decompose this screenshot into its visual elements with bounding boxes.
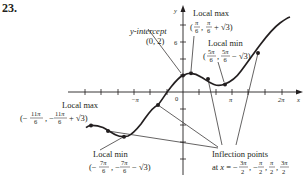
svg-text:,: ,: [201, 22, 203, 32]
local-min-1-coords: ( 5π 6 , 5π 6 − √3): [203, 48, 251, 63]
svg-text:,: ,: [276, 162, 278, 172]
svg-text:(: (: [203, 51, 206, 61]
svg-text:(−: (−: [20, 113, 28, 123]
svg-text:− √3): − √3): [132, 162, 151, 172]
svg-text:, −: , −: [111, 162, 120, 172]
svg-text:6: 6: [207, 27, 211, 34]
svg-text:6: 6: [195, 27, 199, 34]
svg-text:6: 6: [34, 118, 38, 125]
y-axis-arrow-icon: [181, 5, 186, 12]
local-max-1-coords: ( π 6 , π 6 + √3): [190, 19, 233, 34]
function-curve: [86, 17, 290, 137]
tick-label-y6: 6: [174, 39, 178, 46]
tick-label-2pi: 2π: [278, 96, 285, 103]
svg-text:7π: 7π: [100, 159, 107, 166]
local-max-1-label: Local max: [193, 8, 230, 18]
svg-text:11π: 11π: [31, 110, 41, 117]
inflection-label: Inflection points: [212, 149, 268, 159]
svg-text:π: π: [207, 19, 211, 26]
svg-text:(−: (−: [89, 162, 97, 172]
tick-label-zero: 0: [175, 95, 178, 102]
svg-text:7π: 7π: [121, 159, 128, 166]
y-axis-label: y: [173, 7, 177, 14]
svg-text:,: ,: [217, 51, 219, 61]
svg-text:2: 2: [259, 168, 262, 175]
local-min-2-label: Local min: [93, 149, 128, 159]
x-axis-label: x: [296, 96, 300, 103]
svg-text:5π: 5π: [222, 48, 229, 55]
svg-text:6: 6: [224, 56, 228, 63]
graph: −π 0 π 2π x 6 y y-intercept (0, 2) Local…: [0, 0, 307, 178]
local-max-2-label: Local max: [62, 100, 99, 110]
svg-text:6: 6: [210, 56, 214, 63]
local-min-1-label: Local min: [208, 38, 243, 48]
y-intercept-coords: (0, 2): [146, 36, 165, 46]
inflection-coords: at x = − 3π 2 , − π 2 , π 2 , 3π 2: [212, 159, 289, 175]
local-max-2-coords: (− 11π 6 , − 11π 6 + √3): [20, 110, 88, 125]
tick-label-neg-pi: −π: [131, 96, 139, 103]
svg-text:+ √3): + √3): [214, 22, 233, 32]
x-axis-arrow-icon: [296, 90, 303, 95]
svg-text:2: 2: [282, 168, 285, 175]
tick-label-pi: π: [229, 96, 233, 103]
svg-text:5π: 5π: [208, 48, 215, 55]
svg-text:,: ,: [265, 162, 267, 172]
svg-text:, −: , −: [249, 162, 258, 172]
y-intercept-label: y-intercept: [129, 26, 167, 36]
svg-text:π: π: [195, 19, 199, 26]
svg-text:(: (: [190, 22, 193, 32]
svg-text:at x = −: at x = −: [212, 162, 238, 172]
svg-text:6: 6: [123, 167, 127, 174]
svg-text:2: 2: [241, 168, 244, 175]
svg-text:− √3): − √3): [232, 51, 251, 61]
svg-text:11π: 11π: [55, 110, 65, 117]
local-min-2-coords: (− 7π 6 , − 7π 6 − √3): [89, 159, 151, 174]
svg-text:6: 6: [102, 167, 106, 174]
svg-text:2: 2: [270, 168, 273, 175]
svg-text:π: π: [259, 159, 263, 166]
svg-text:3π: 3π: [240, 159, 247, 166]
svg-text:3π: 3π: [281, 159, 288, 166]
svg-text:+ √3): + √3): [69, 113, 88, 123]
svg-text:π: π: [270, 159, 274, 166]
svg-text:, −: , −: [45, 113, 54, 123]
svg-text:6: 6: [58, 118, 62, 125]
